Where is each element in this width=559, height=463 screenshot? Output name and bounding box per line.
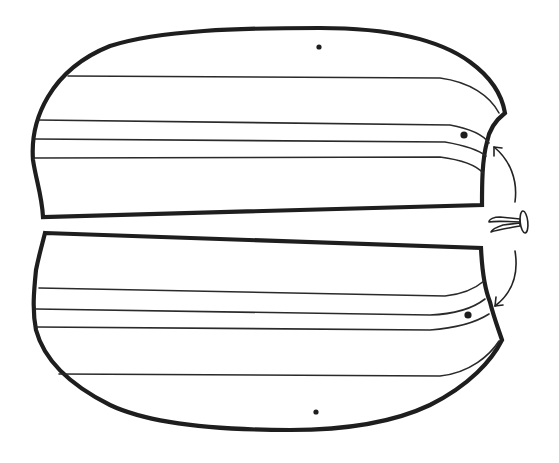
brad-prong-upper: [489, 217, 520, 222]
diagram-canvas: Two pattern panel pieces with fold lines…: [0, 0, 559, 463]
brad-prong-lower: [491, 223, 520, 232]
top-panel-center-dot: [316, 44, 321, 49]
brad-fastener-icon: [489, 211, 529, 234]
brad-head: [519, 211, 529, 234]
arrow-to-top-hole-shaft: [494, 147, 516, 202]
arrow-to-bottom-hole: [495, 251, 516, 306]
arrow-to-bottom-hole-shaft: [495, 251, 516, 306]
top-panel-hole: [460, 131, 467, 138]
bottom-panel-outline: [34, 233, 502, 430]
arrow-to-top-hole: [494, 147, 516, 202]
top-panel: [33, 28, 505, 217]
diagram-svg: [0, 0, 559, 463]
bottom-panel-hole: [464, 311, 471, 318]
bottom-panel: [34, 233, 502, 430]
bottom-panel-center-dot: [313, 409, 318, 414]
